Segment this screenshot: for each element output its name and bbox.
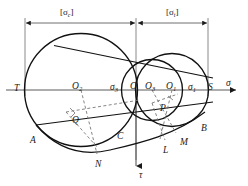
point-label-S: S — [208, 83, 213, 93]
lower-tangent-line — [36, 102, 213, 125]
point-label-O3: O3 — [145, 82, 155, 92]
segment-P-O1 — [152, 94, 178, 103]
point-label-Q: Q — [72, 116, 79, 126]
point-label-sigma3: σ3 — [110, 83, 118, 93]
point-label-L: L — [163, 146, 168, 156]
point-label-O2: O2 — [72, 82, 82, 92]
point-label-B: B — [201, 124, 207, 134]
construction-lines — [66, 90, 178, 154]
point-label-O: O — [130, 82, 137, 92]
point-label-sigma1: σ1 — [188, 83, 196, 93]
sigma-axis-label: σ — [226, 79, 231, 89]
point-label-N: N — [95, 160, 101, 170]
point-label-O1: O1 — [166, 82, 176, 92]
point-label-T: T — [14, 84, 19, 94]
sigma-c-dimension-label: [σc] — [60, 7, 74, 17]
point-label-C: C — [117, 132, 123, 142]
diagram-canvas — [0, 0, 248, 186]
upper-tangent-line — [54, 46, 213, 79]
point-label-M: M — [180, 138, 188, 148]
sigma-t-dimension-label: [σt] — [166, 7, 179, 17]
point-label-A: A — [30, 136, 36, 146]
mohr-circle-figure: [σc] [σt] σ τ T O2 σ3 O O3 O1 σ1 S A Q C… — [0, 0, 248, 186]
point-label-P: P — [160, 104, 166, 114]
tau-axis-label: τ — [139, 171, 142, 181]
